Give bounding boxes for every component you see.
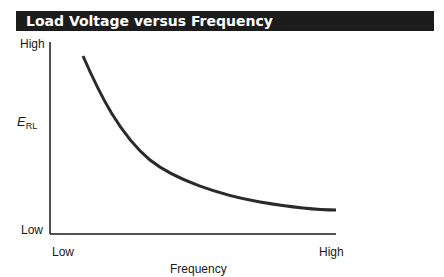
- y-axis-label-sub: RL: [26, 121, 38, 131]
- y-axis-label: ERL: [17, 114, 37, 131]
- y-axis-label-main: E: [17, 114, 26, 129]
- y-tick-high: High: [20, 37, 45, 51]
- x-tick-high: High: [319, 245, 344, 259]
- chart-plot: [0, 0, 444, 277]
- y-tick-low: Low: [21, 223, 43, 237]
- x-axis-label: Frequency: [170, 262, 227, 276]
- load-voltage-curve: [83, 56, 336, 210]
- x-tick-low: Low: [52, 245, 74, 259]
